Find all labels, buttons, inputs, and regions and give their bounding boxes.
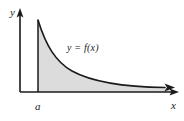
- figure-canvas: [0, 0, 184, 121]
- y-axis-label: y: [10, 7, 15, 18]
- improper-integral-figure: y x a y = f(x): [0, 0, 184, 121]
- curve-equation-label: y = f(x): [67, 43, 99, 53]
- x-axis-label: x: [171, 100, 176, 111]
- lower-limit-label-a: a: [35, 101, 41, 112]
